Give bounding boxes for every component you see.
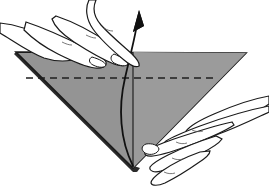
figure-canvas [0, 0, 269, 186]
origami-figure: Two hands hold a gray triangular folded … [0, 0, 269, 186]
right-hand-fingertip-nail [142, 144, 159, 155]
